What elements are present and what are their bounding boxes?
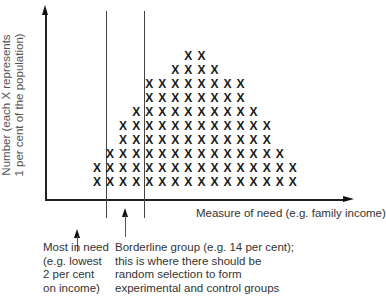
population-mark: X [104, 162, 116, 174]
population-mark: X [208, 120, 220, 132]
population-mark: X [156, 148, 168, 160]
population-mark: X [91, 162, 103, 174]
population-mark: X [248, 162, 260, 174]
population-mark: X [143, 176, 155, 188]
population-mark: X [208, 64, 220, 76]
population-mark: X [182, 176, 194, 188]
population-mark: X [248, 134, 260, 146]
population-mark: X [222, 162, 234, 174]
population-mark: X [182, 92, 194, 104]
population-mark: X [143, 120, 155, 132]
population-mark: X [222, 106, 234, 118]
y-axis [45, 12, 47, 200]
population-mark: X [182, 50, 194, 62]
population-mark: X [222, 148, 234, 160]
population-mark: X [143, 106, 155, 118]
population-mark: X [195, 78, 207, 90]
population-mark: X [195, 50, 207, 62]
population-mark: X [117, 120, 129, 132]
x-axis-arrow-icon [343, 196, 354, 202]
population-mark: X [235, 162, 247, 174]
y-axis-label: Number (each X represents 1 per cent of … [0, 30, 26, 180]
x-axis-label: Measure of need (e.g. family income) [196, 207, 386, 219]
population-mark: X [169, 162, 181, 174]
population-mark: X [156, 92, 168, 104]
population-mark: X [182, 106, 194, 118]
population-mark: X [208, 106, 220, 118]
population-mark: X [235, 134, 247, 146]
population-mark: X [195, 64, 207, 76]
population-mark: X [91, 176, 103, 188]
population-mark: X [104, 148, 116, 160]
population-mark: X [195, 92, 207, 104]
population-mark: X [248, 176, 260, 188]
population-mark: X [182, 162, 194, 174]
population-mark: X [169, 176, 181, 188]
population-mark: X [235, 106, 247, 118]
population-mark: X [156, 162, 168, 174]
borderline-pointer-shaft [125, 215, 126, 237]
population-mark: X [130, 120, 142, 132]
population-mark: X [130, 106, 142, 118]
population-mark: X [182, 120, 194, 132]
population-mark: X [222, 78, 234, 90]
population-mark: X [156, 134, 168, 146]
population-mark: X [169, 64, 181, 76]
population-mark: X [208, 162, 220, 174]
population-mark: X [222, 92, 234, 104]
population-mark: X [208, 176, 220, 188]
population-mark: X [222, 134, 234, 146]
population-mark: X [208, 92, 220, 104]
population-mark: X [169, 92, 181, 104]
population-mark: X [130, 176, 142, 188]
population-mark: X [143, 78, 155, 90]
population-mark: X [195, 134, 207, 146]
population-mark: X [195, 120, 207, 132]
population-mark: X [235, 92, 247, 104]
population-mark: X [169, 148, 181, 160]
population-mark: X [156, 176, 168, 188]
population-mark: X [182, 64, 194, 76]
population-mark: X [222, 176, 234, 188]
population-mark: X [274, 162, 286, 174]
population-mark: X [235, 176, 247, 188]
population-mark: X [130, 134, 142, 146]
population-mark: X [208, 148, 220, 160]
population-mark: X [117, 148, 129, 160]
population-mark: X [195, 106, 207, 118]
population-mark: X [274, 148, 286, 160]
population-mark: X [261, 176, 273, 188]
population-mark: X [287, 162, 299, 174]
population-mark: X [182, 134, 194, 146]
population-mark: X [235, 148, 247, 160]
population-mark: X [117, 176, 129, 188]
population-mark: X [169, 78, 181, 90]
population-mark: X [143, 162, 155, 174]
population-mark: X [208, 78, 220, 90]
population-mark: X [130, 162, 142, 174]
population-mark: X [287, 176, 299, 188]
population-mark: X [156, 78, 168, 90]
population-mark: X [274, 176, 286, 188]
population-mark: X [261, 162, 273, 174]
most-in-need-note: Most in need (e.g. lowest 2 per cent on … [43, 241, 109, 295]
population-mark: X [117, 134, 129, 146]
population-mark: X [169, 106, 181, 118]
population-mark: X [261, 134, 273, 146]
population-mark: X [195, 148, 207, 160]
population-mark: X [156, 120, 168, 132]
population-mark: X [248, 106, 260, 118]
population-mark: X [169, 120, 181, 132]
population-mark: X [248, 148, 260, 160]
population-mark: X [156, 106, 168, 118]
population-mark: X [195, 176, 207, 188]
population-mark: X [261, 148, 273, 160]
population-mark: X [169, 134, 181, 146]
population-mark: X [235, 120, 247, 132]
population-mark: X [117, 162, 129, 174]
population-mark: X [143, 134, 155, 146]
population-mark: X [222, 120, 234, 132]
population-mark: X [130, 148, 142, 160]
population-mark: X [182, 148, 194, 160]
population-mark: X [208, 134, 220, 146]
